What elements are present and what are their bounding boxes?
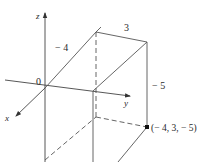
origin-label: 0 <box>36 76 41 87</box>
coordinate-diagram: z x y 0 <box>0 0 206 162</box>
y-axis-label: y <box>123 98 128 108</box>
x-axis-label: x <box>4 113 9 123</box>
z-axis-label: z <box>35 11 40 21</box>
x-axis <box>16 88 45 116</box>
y-axis <box>5 80 130 96</box>
y-extent-label: 3 <box>124 22 129 33</box>
point-marker <box>145 125 149 129</box>
z-extent-label: − 5 <box>152 80 165 91</box>
point-label: (− 4, 3, − 5) <box>151 123 197 134</box>
x-extent-label: − 4 <box>55 42 68 53</box>
